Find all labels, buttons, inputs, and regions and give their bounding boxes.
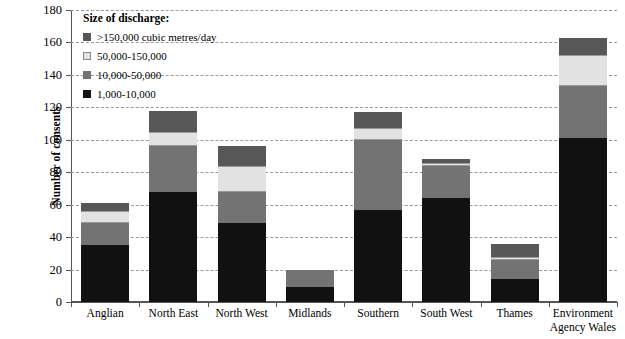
legend-item-label: >150,000 cubic metres/day	[97, 31, 217, 43]
y-axis-title: Number of consents	[50, 56, 62, 256]
legend-item-label: 10,000-50,000	[97, 69, 161, 81]
bar-segment-3[interactable]	[149, 111, 197, 132]
x-axis-label-line1: North East	[139, 306, 207, 320]
bar-segment-0[interactable]	[286, 287, 334, 302]
y-tick-label-20: 20	[50, 262, 63, 277]
legend-swatch-icon	[83, 52, 91, 60]
stacked-bar-chart: Number of consents 020406080100120140160…	[0, 0, 625, 339]
bar-segment-2[interactable]	[81, 211, 129, 222]
bar-south-west[interactable]	[422, 159, 470, 302]
bar-segment-0[interactable]	[422, 198, 470, 302]
bar-segment-1[interactable]	[354, 140, 402, 210]
bar-segment-3[interactable]	[422, 159, 470, 162]
x-axis-label-7: EnvironmentAgency Wales	[549, 306, 617, 334]
x-axis-label-line1: Environment	[549, 306, 617, 320]
y-tick-label-60: 60	[50, 197, 63, 212]
bar-segment-2[interactable]	[491, 257, 539, 260]
bar-segment-3[interactable]	[491, 244, 539, 257]
bar-segment-1[interactable]	[218, 192, 266, 223]
legend-swatch-icon	[83, 71, 91, 79]
legend-item-0[interactable]: >150,000 cubic metres/day	[83, 31, 217, 43]
legend-item-label: 1,000-10,000	[97, 88, 156, 100]
y-tick-label-40: 40	[50, 230, 63, 245]
bar-environment-agency-wales[interactable]	[559, 38, 607, 302]
x-axis-labels: AnglianNorth EastNorth WestMidlandsSouth…	[71, 306, 617, 339]
y-tick-label-0: 0	[56, 295, 62, 310]
x-axis-label-5: South West	[412, 306, 480, 320]
bar-segment-2[interactable]	[422, 163, 470, 166]
x-axis-label-0: Anglian	[71, 306, 139, 320]
bar-segment-0[interactable]	[354, 210, 402, 302]
bar-segment-0[interactable]	[559, 138, 607, 302]
legend-item-2[interactable]: 10,000-50,000	[83, 69, 217, 81]
x-axis-label-6: Thames	[481, 306, 549, 320]
bar-segment-1[interactable]	[149, 146, 197, 191]
legend-item-3[interactable]: 1,000-10,000	[83, 88, 217, 100]
bar-southern[interactable]	[354, 112, 402, 302]
legend-title: Size of discharge:	[83, 12, 217, 24]
legend-item-label: 50,000-150,000	[97, 50, 167, 62]
y-tick-label-120: 120	[43, 100, 62, 115]
bar-segment-0[interactable]	[81, 245, 129, 302]
bar-north-west[interactable]	[218, 146, 266, 302]
bar-segment-0[interactable]	[218, 223, 266, 302]
x-axis-label-4: Southern	[344, 306, 412, 320]
bar-segment-1[interactable]	[422, 166, 470, 198]
legend-items: >150,000 cubic metres/day50,000-150,0001…	[83, 31, 217, 100]
x-tick-mark-end	[617, 302, 618, 307]
y-tick-label-140: 140	[43, 67, 62, 82]
x-axis-label-line2: Agency Wales	[549, 320, 617, 334]
x-axis-label-line1: Midlands	[276, 306, 344, 320]
y-tick-label-180: 180	[43, 3, 62, 18]
legend: Size of discharge: >150,000 cubic metres…	[71, 12, 217, 107]
bar-segment-0[interactable]	[149, 192, 197, 302]
bar-thames[interactable]	[491, 244, 539, 302]
x-axis-label-1: North East	[139, 306, 207, 320]
bar-segment-1[interactable]	[559, 86, 607, 138]
y-tick-label-80: 80	[50, 165, 63, 180]
bar-segment-2[interactable]	[149, 132, 197, 147]
x-axis-label-line1: South West	[412, 306, 480, 320]
bar-segment-1[interactable]	[491, 260, 539, 279]
legend-swatch-icon	[83, 33, 91, 41]
bar-segment-2[interactable]	[354, 128, 402, 139]
y-tick-label-160: 160	[43, 35, 62, 50]
bar-segment-3[interactable]	[354, 112, 402, 128]
bar-segment-1[interactable]	[286, 270, 334, 288]
bar-midlands[interactable]	[286, 270, 334, 302]
bar-segment-3[interactable]	[218, 146, 266, 165]
x-axis-label-2: North West	[208, 306, 276, 320]
legend-swatch-icon	[83, 90, 91, 98]
bar-segment-3[interactable]	[559, 38, 607, 56]
bar-segment-0[interactable]	[491, 279, 539, 302]
x-axis-label-line1: North West	[208, 306, 276, 320]
x-axis-label-line1: Thames	[481, 306, 549, 320]
legend-item-1[interactable]: 50,000-150,000	[83, 50, 217, 62]
bar-segment-3[interactable]	[81, 203, 129, 211]
bar-segment-2[interactable]	[218, 166, 266, 192]
y-tick-label-100: 100	[43, 132, 62, 147]
x-axis-label-3: Midlands	[276, 306, 344, 320]
x-axis-label-line1: Anglian	[71, 306, 139, 320]
bar-north-east[interactable]	[149, 111, 197, 302]
bar-segment-1[interactable]	[81, 223, 129, 246]
bar-segment-2[interactable]	[559, 55, 607, 86]
x-axis-label-line1: Southern	[344, 306, 412, 320]
bar-anglian[interactable]	[81, 203, 129, 302]
